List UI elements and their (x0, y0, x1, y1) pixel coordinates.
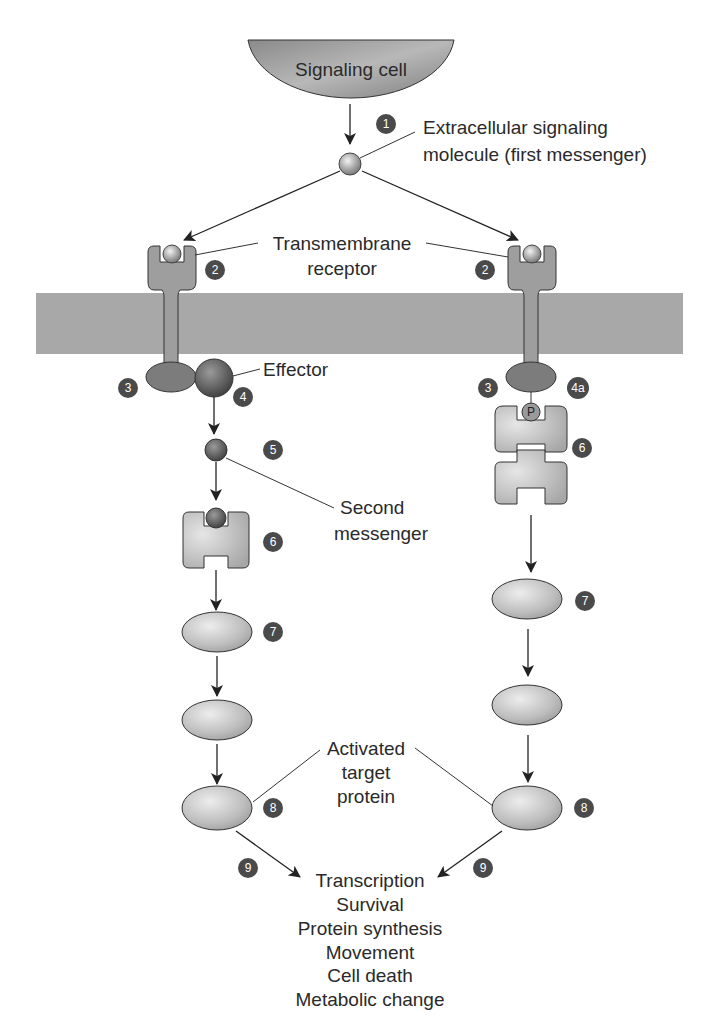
first-messenger-leader (360, 132, 415, 158)
svg-text:1: 1 (383, 117, 390, 131)
svg-text:9: 9 (480, 861, 487, 875)
signaling-cell-label: Signaling cell (295, 59, 407, 80)
right-intermediate-protein (492, 685, 562, 725)
svg-text:9: 9 (245, 861, 252, 875)
right-bound-ligand (523, 245, 541, 263)
svg-text:6: 6 (270, 535, 277, 549)
second-messenger-leader (226, 458, 334, 508)
svg-text:2: 2 (482, 263, 489, 277)
svg-text:7: 7 (270, 625, 277, 639)
svg-text:3: 3 (125, 381, 132, 395)
left-activated-target-protein (182, 786, 252, 830)
outcome-item: Movement (326, 942, 415, 963)
target-label-1: Activated (327, 738, 405, 759)
svg-text:5: 5 (270, 443, 277, 457)
outcome-item: Metabolic change (296, 989, 445, 1010)
effector-protein (195, 359, 233, 397)
step-badge-8-left: 8 (263, 798, 283, 818)
arrow-to-left-receptor (184, 171, 340, 240)
signaling-pathway-diagram: Signaling cell 1 Extracellular signaling… (0, 0, 706, 1027)
svg-text:8: 8 (581, 801, 588, 815)
target-label-2: target (342, 762, 391, 783)
signaling-cell: Signaling cell (248, 40, 454, 98)
plasma-membrane (36, 293, 683, 354)
target-leader-right (415, 748, 493, 806)
step-badge-1: 1 (376, 114, 396, 134)
receptor-label-1: Transmembrane (273, 233, 412, 254)
first-messenger-label-2: molecule (first messenger) (423, 144, 647, 165)
outcome-item: Transcription (315, 870, 424, 891)
outcome-item: Protein synthesis (298, 918, 443, 939)
outcome-item: Cell death (327, 965, 413, 986)
step-badge-6-right: 6 (572, 438, 592, 458)
effector-leader (233, 369, 260, 376)
step-badge-7-left: 7 (263, 622, 283, 642)
second-messenger-label-2: messenger (334, 523, 429, 544)
svg-text:4: 4 (240, 390, 247, 404)
receptor-leader-left (195, 243, 258, 255)
step-badge-3-left: 3 (118, 378, 138, 398)
step-badge-2-left: 2 (205, 260, 225, 280)
step-badge-5: 5 (263, 440, 283, 460)
first-messenger-molecule (339, 153, 361, 175)
left-protein-7 (182, 612, 252, 652)
step-badge-4: 4 (233, 387, 253, 407)
left-intermediate-protein (182, 700, 252, 740)
receptor-leader-right (426, 243, 508, 257)
step-badge-9-right: 9 (473, 858, 493, 878)
cellular-outcomes-list: Transcription Survival Protein synthesis… (296, 870, 445, 1010)
svg-text:4a: 4a (571, 381, 585, 395)
phosphate-group: P (522, 403, 540, 421)
right-activated-target-protein (492, 786, 562, 830)
step-badge-7-right: 7 (575, 591, 595, 611)
arrow-to-right-receptor (362, 171, 518, 240)
step-badge-9-left: 9 (238, 858, 258, 878)
step-badge-4a: 4a (567, 377, 589, 399)
first-messenger-label-1: Extracellular signaling (423, 117, 608, 138)
left-bound-ligand (163, 245, 181, 263)
svg-text:8: 8 (270, 801, 277, 815)
right-protein-7 (492, 579, 562, 619)
step-badge-3-right: 3 (478, 378, 498, 398)
right-kinase-lower (495, 450, 567, 504)
target-leader-left (253, 750, 320, 802)
svg-text:6: 6 (579, 441, 586, 455)
second-messenger-label-1: Second (340, 497, 404, 518)
svg-text:2: 2 (212, 263, 219, 277)
svg-text:7: 7 (582, 594, 589, 608)
step-badge-8-right: 8 (574, 798, 594, 818)
step-badge-6-left: 6 (263, 532, 283, 552)
outcome-item: Survival (336, 894, 404, 915)
step-badge-2-right: 2 (475, 260, 495, 280)
kinase-bound-second-messenger (206, 508, 226, 528)
phosphate-label: P (527, 405, 535, 419)
second-messenger-molecule (205, 439, 227, 461)
svg-text:3: 3 (485, 381, 492, 395)
effector-label: Effector (263, 359, 329, 380)
target-label-3: protein (337, 786, 395, 807)
receptor-label-2: receptor (307, 258, 377, 279)
